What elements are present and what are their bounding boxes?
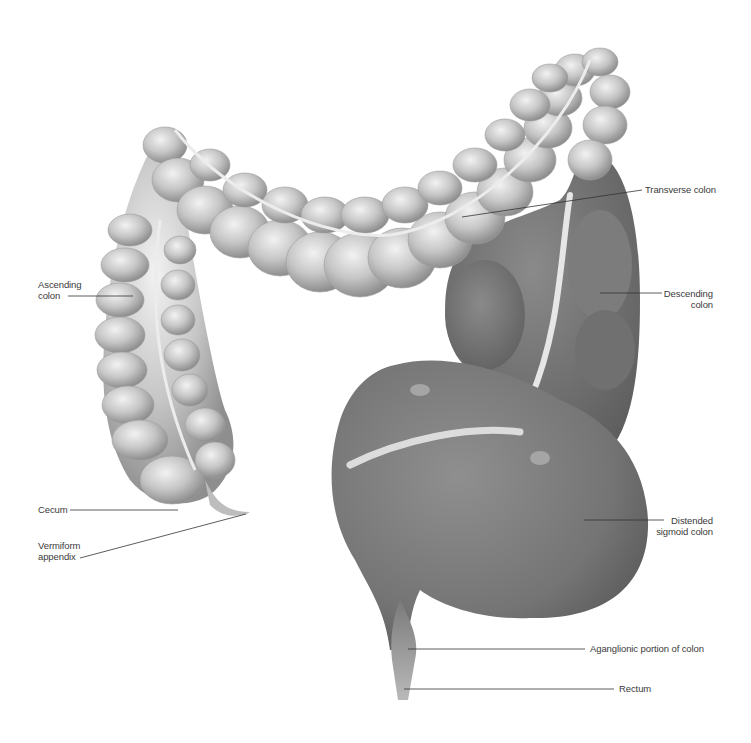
label-aganglionic-portion: Aganglionic portion of colon: [590, 643, 704, 654]
label-descending-colon: Descending colon: [664, 288, 713, 310]
label-transverse-colon: Transverse colon: [645, 184, 716, 195]
label-rectum: Rectum: [619, 683, 651, 694]
label-distended-sigmoid-colon: Distended sigmoid colon: [656, 515, 713, 537]
colon-illustration: [0, 0, 751, 743]
label-ascending-colon: Ascending colon: [38, 279, 81, 301]
label-vermiform-appendix: Vermiform appendix: [38, 540, 80, 562]
label-cecum: Cecum: [38, 504, 68, 515]
